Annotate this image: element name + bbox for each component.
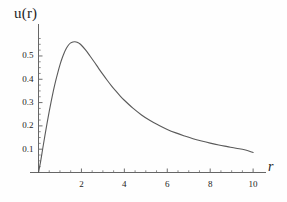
y-tick-label: 0.2 [10, 121, 34, 130]
x-tick-label: 4 [114, 180, 134, 189]
y-tick-label: 0.5 [10, 51, 34, 60]
x-axis-label: r [268, 160, 273, 174]
axis-lines [30, 24, 266, 173]
y-tick-label: 0.3 [10, 98, 34, 107]
x-tick-label: 6 [157, 180, 177, 189]
x-tick-label: 8 [200, 180, 220, 189]
y-tick-label: 0.4 [10, 75, 34, 84]
x-tick-label: 10 [243, 180, 263, 189]
chart-figure: u(r) r 2468100.10.20.30.40.5 [0, 0, 287, 202]
y-tick-label: 0.1 [10, 145, 34, 154]
x-axis-ticks [49, 169, 253, 173]
plot-area [0, 0, 287, 202]
x-tick-label: 2 [71, 180, 91, 189]
y-axis-label: u(r) [14, 6, 37, 21]
y-axis-ticks [39, 38, 43, 166]
data-curve-u-of-r [39, 42, 254, 173]
